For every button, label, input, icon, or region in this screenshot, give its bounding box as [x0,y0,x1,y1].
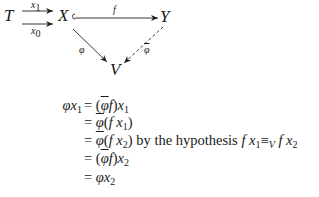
equals-sign: = [84,97,92,113]
label-x0: x0 [31,25,40,36]
equation-line-3: = φ(f x2) by the hypothesis f x1≡V f x2 [0,131,319,149]
sub: 2 [110,176,115,187]
equation-rhs-3: = φ(f x2) by the hypothesis f x1≡V f x2 [84,131,297,149]
phibar: φ [101,97,109,113]
label-f: f [113,4,116,15]
f: f [278,132,282,148]
phibar: φ [96,132,104,148]
equation-line-4: = (φf)x2 [0,149,319,167]
node-X: X [58,6,68,26]
phi: φ [96,169,104,185]
f: f [109,132,113,148]
f: f [109,114,113,130]
equation-line-2: = φ(f x1) [0,113,319,131]
phibar: φ [96,114,104,130]
node-T: T [4,6,13,26]
equation-line-5: = φx2 [0,168,319,186]
phibar: φ [101,150,109,166]
equation-rhs-1: = (φf)x1 [84,96,129,114]
equation-lhs: φx1 [2,96,82,114]
f: f [241,132,245,148]
node-Y: Y [160,7,169,27]
equation-rhs-5: = φx2 [84,168,115,186]
label-x1: x1 [31,0,40,10]
equals-sign: = [84,132,92,148]
equation-line-1: φx1 = (φf)x1 [0,96,319,114]
lhs-phi: φ [63,97,71,113]
label-phibar: φ [144,44,150,55]
equals-sign: = [84,150,92,166]
equation-rhs-4: = (φf)x2 [84,149,129,167]
sub: 2 [124,157,129,168]
node-V: V [110,60,120,80]
equals-sign: = [84,169,92,185]
paren: ) [128,132,133,148]
arrow-f-hook [73,14,76,19]
equiv-sign: ≡ [260,132,268,148]
label-x1-sub: 1 [35,2,40,13]
equals-sign: = [84,114,92,130]
hypothesis-note: by the hypothesis [136,132,238,148]
equation-rhs-2: = φ(f x1) [84,113,133,131]
paren: ) [128,114,133,130]
label-phi: φ [79,44,85,55]
label-x0-sub: 0 [35,28,40,39]
